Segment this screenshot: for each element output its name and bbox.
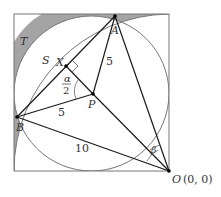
point-b [15, 115, 19, 119]
angle-alpha-numerator: α [64, 73, 71, 84]
point-a [113, 14, 117, 18]
angle-alpha-denominator: 2 [63, 85, 69, 96]
length-pa: 5 [106, 55, 113, 68]
length-ob: 10 [75, 142, 89, 155]
label-a: A [110, 24, 119, 37]
geometry-diagram: T S X A B P O (0, 0) 5 5 10 α 2 β [0, 0, 221, 197]
label-p: P [87, 98, 96, 111]
point-x [64, 64, 68, 68]
point-o [167, 169, 171, 173]
label-b: B [15, 121, 24, 134]
label-o: O [172, 173, 181, 186]
point-p [91, 92, 95, 96]
label-s: S [42, 54, 50, 67]
label-o-coords: (0, 0) [183, 173, 213, 186]
angle-beta: β [150, 145, 156, 155]
label-x: X [55, 56, 65, 69]
length-pb: 5 [58, 106, 65, 119]
